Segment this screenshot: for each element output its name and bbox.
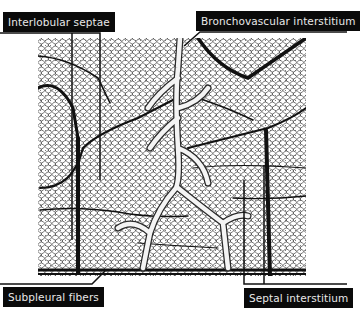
label-bronchovascular-interstitium: Bronchovascular interstitium	[196, 11, 360, 31]
label-subpleural-fibers: Subpleural fibers	[3, 287, 104, 307]
label-septal-interstitium: Septal interstitium	[244, 288, 353, 308]
label-interlobular-septae: Interlobular septae	[3, 12, 115, 32]
